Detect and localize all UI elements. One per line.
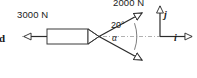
rod-body — [47, 29, 88, 44]
left-force-label: 3000 N — [17, 10, 48, 20]
axis-i-label: i — [174, 33, 177, 43]
lower-angle-label: α — [112, 34, 117, 44]
lower-cable-line — [99, 37, 142, 61]
angle-arc — [135, 23, 137, 50]
rod-end-taper — [88, 29, 99, 44]
force-diagram: d 3000 N 2000 N 20° α i j — [0, 0, 197, 78]
upper-angle-label: 20° — [111, 21, 125, 30]
axis-j-label: j — [164, 10, 167, 20]
clipped-left-text: d — [0, 33, 5, 44]
upper-force-label: 2000 N — [113, 0, 144, 8]
